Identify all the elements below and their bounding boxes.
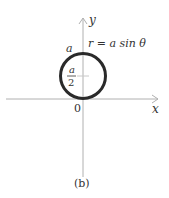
x-axis-label: x — [152, 102, 159, 116]
y-axis-label: y — [88, 13, 96, 27]
origin-label: 0 — [74, 102, 81, 115]
center-label-numerator: a — [69, 64, 75, 75]
circle-top-label: a — [66, 42, 73, 55]
equation-label: r = a sin θ — [88, 37, 146, 50]
polar-plot: y x 0 r = a sin θ a a 2 (b) — [0, 0, 169, 198]
center-label-denominator: 2 — [68, 77, 74, 88]
figure-caption: (b) — [74, 177, 90, 190]
